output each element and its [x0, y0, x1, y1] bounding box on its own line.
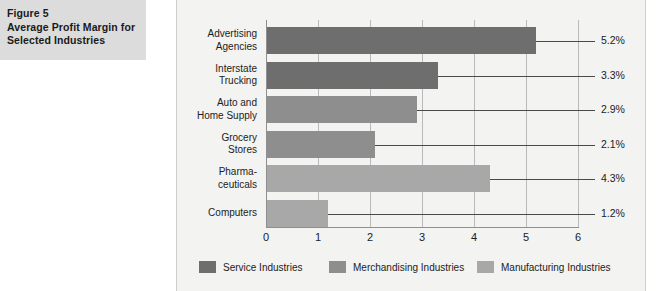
- figure-number: Figure 5: [7, 7, 138, 21]
- value-label: 5.2%: [601, 34, 647, 46]
- leader-line: [536, 41, 595, 42]
- y-axis-line: [266, 20, 267, 228]
- category-label: Computers: [107, 207, 257, 220]
- category-label-line: Grocery: [107, 132, 257, 145]
- category-label-line: Agencies: [107, 41, 257, 54]
- leader-line: [417, 110, 595, 111]
- legend-label: Merchandising Industries: [353, 262, 464, 273]
- legend-label: Service Industries: [223, 262, 302, 273]
- chart-legend: Service IndustriesMerchandising Industri…: [177, 259, 647, 277]
- value-label: 2.9%: [601, 103, 647, 115]
- value-label: 4.3%: [601, 172, 647, 184]
- category-label-line: Pharma-: [107, 166, 257, 179]
- leader-line: [328, 214, 595, 215]
- legend-item: Service Industries: [199, 259, 302, 275]
- legend-item: Merchandising Industries: [329, 259, 464, 275]
- legend-swatch: [329, 261, 346, 273]
- category-label: AdvertisingAgencies: [107, 28, 257, 53]
- x-tick-label: 3: [412, 231, 432, 243]
- bar: [266, 165, 490, 192]
- value-label: 1.2%: [601, 207, 647, 219]
- value-label: 3.3%: [601, 69, 647, 81]
- leader-line: [490, 179, 595, 180]
- leader-line: [375, 145, 595, 146]
- category-label-line: Advertising: [107, 28, 257, 41]
- category-label-line: Interstate: [107, 63, 257, 76]
- category-label-line: Home Supply: [107, 110, 257, 123]
- category-label-line: Stores: [107, 144, 257, 157]
- bar: [266, 96, 417, 123]
- bar: [266, 200, 328, 227]
- x-tick-label: 4: [464, 231, 484, 243]
- category-label-line: Auto and: [107, 97, 257, 110]
- chart-panel: AdvertisingAgenciesInterstateTruckingAut…: [176, 0, 646, 291]
- x-tick-label: 1: [308, 231, 328, 243]
- category-label-line: Trucking: [107, 75, 257, 88]
- category-label-line: ceuticals: [107, 179, 257, 192]
- leader-line: [438, 76, 595, 77]
- category-label: Pharma-ceuticals: [107, 166, 257, 191]
- category-label: GroceryStores: [107, 132, 257, 157]
- value-label: 2.1%: [601, 138, 647, 150]
- gridline-6: [578, 20, 579, 227]
- legend-swatch: [199, 261, 216, 273]
- bar: [266, 131, 375, 158]
- bar: [266, 62, 438, 89]
- category-label-line: Computers: [107, 207, 257, 220]
- legend-swatch: [477, 261, 494, 273]
- legend-label: Manufacturing Industries: [501, 262, 611, 273]
- category-label: Auto andHome Supply: [107, 97, 257, 122]
- legend-item: Manufacturing Industries: [477, 259, 611, 275]
- x-tick-label: 5: [516, 231, 536, 243]
- x-tick-label: 0: [256, 231, 276, 243]
- bar: [266, 27, 536, 54]
- x-tick-label: 6: [568, 231, 588, 243]
- x-tick-label: 2: [360, 231, 380, 243]
- category-label: InterstateTrucking: [107, 63, 257, 88]
- x-axis-line: [266, 227, 579, 228]
